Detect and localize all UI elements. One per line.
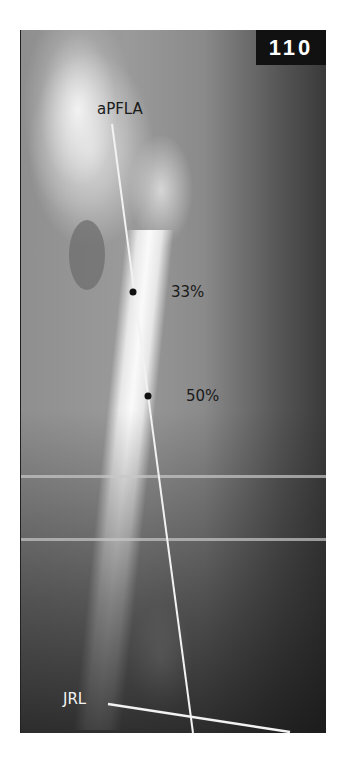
point-50-dot [145, 393, 152, 400]
point-33-dot [130, 289, 137, 296]
annotation-overlay [0, 0, 342, 767]
apfla-axis-line [112, 124, 193, 733]
joint-reference-line [108, 704, 290, 732]
